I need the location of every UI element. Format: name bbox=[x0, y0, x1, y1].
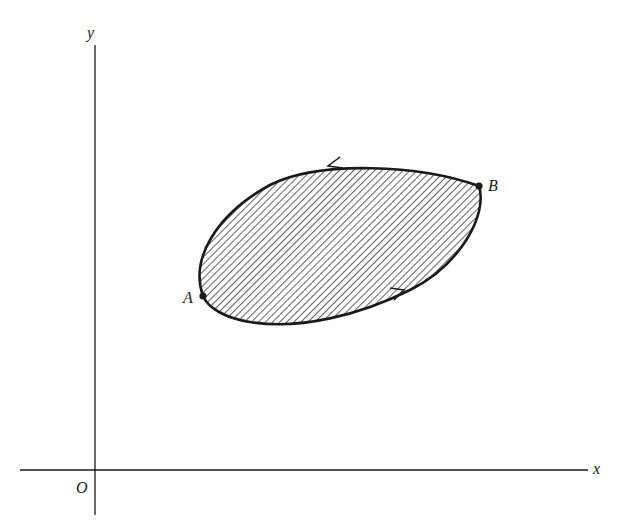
point-b-label: B bbox=[488, 177, 498, 194]
point-a-marker bbox=[199, 292, 206, 299]
origin-label: O bbox=[76, 479, 88, 496]
x-axis-label: x bbox=[592, 460, 600, 477]
y-axis-label: y bbox=[85, 24, 95, 42]
line-integral-diagram: y x O A B bbox=[0, 0, 628, 528]
point-b-marker bbox=[475, 182, 482, 189]
arrow-left-icon bbox=[328, 157, 343, 168]
point-a-label: A bbox=[182, 289, 193, 306]
